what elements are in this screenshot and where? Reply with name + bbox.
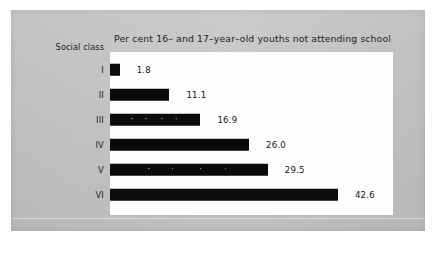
value-label-iii: 16.9 — [217, 115, 237, 125]
category-label-iv: IV — [26, 140, 104, 150]
category-axis-caption: Social class — [26, 42, 104, 52]
category-label-v: V — [26, 165, 104, 175]
value-label-ii: 11.1 — [186, 90, 206, 100]
category-label-vi: VI — [26, 190, 104, 200]
paper-seam — [11, 218, 425, 219]
value-label-iv: 26.0 — [266, 140, 286, 150]
category-label-iii: III — [26, 115, 104, 125]
value-label-i: 1.8 — [137, 65, 151, 75]
category-tick-labels: IIIIIIIVVVI — [26, 52, 104, 215]
value-label-v: 29.5 — [285, 165, 305, 175]
category-label-i: I — [26, 65, 104, 75]
chart-title: Per cent 16– and 17–year–old youths not … — [114, 33, 391, 44]
category-label-ii: II — [26, 90, 104, 100]
value-label-vi: 42.6 — [355, 190, 375, 200]
value-labels-layer: 1.811.116.926.029.542.6 — [110, 52, 393, 215]
